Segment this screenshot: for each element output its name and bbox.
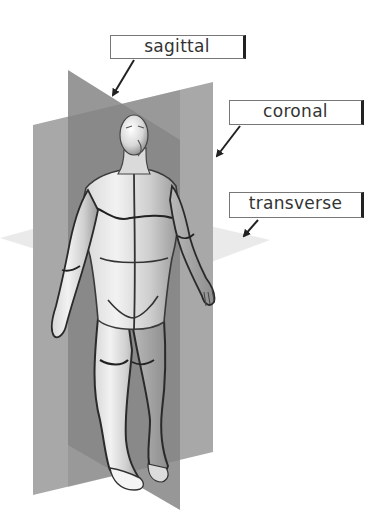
- coronal-arrow: [217, 126, 240, 156]
- head: [120, 115, 148, 155]
- sagittal-arrow: [113, 60, 134, 95]
- body-midline: [134, 168, 135, 330]
- coronal-label: coronal: [229, 100, 364, 125]
- sagittal-label: sagittal: [110, 35, 246, 59]
- torso: [83, 168, 178, 329]
- planes-illustration: [0, 0, 384, 529]
- anatomical-planes-diagram: sagittal coronal transverse: [0, 0, 384, 529]
- transverse-arrow: [244, 220, 258, 236]
- transverse-label: transverse: [229, 192, 364, 218]
